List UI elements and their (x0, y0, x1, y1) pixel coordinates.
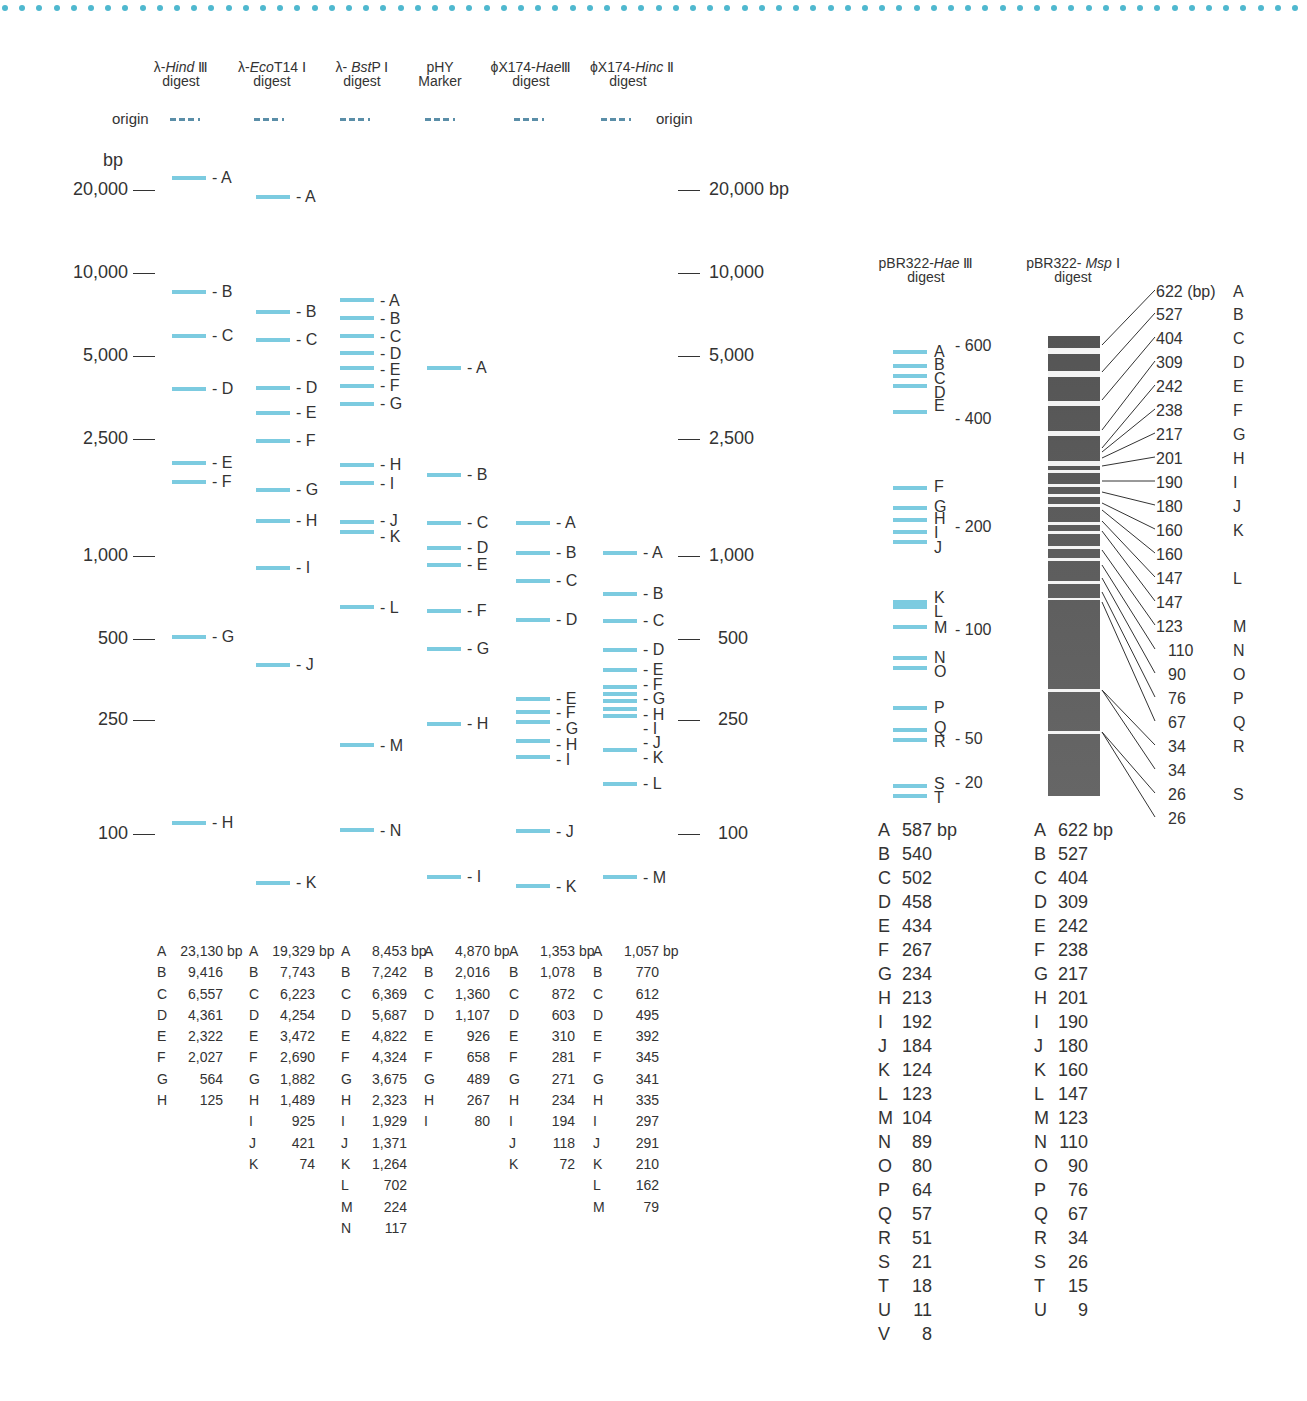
leader-lines (0, 0, 1307, 1401)
